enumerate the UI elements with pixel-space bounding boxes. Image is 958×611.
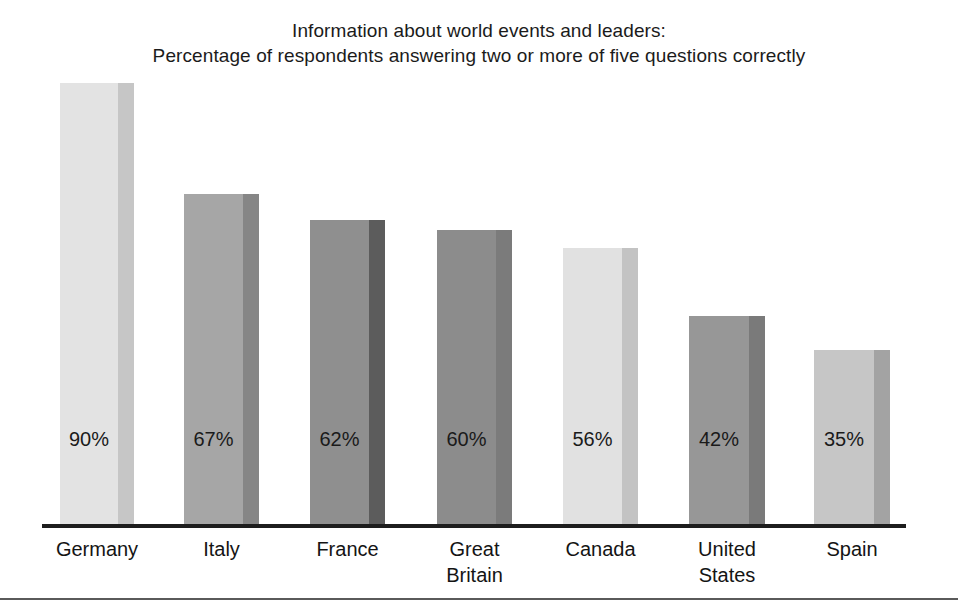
chart-figure: Information about world events and leade… — [0, 0, 958, 611]
bar-face — [310, 220, 369, 524]
bar[interactable] — [437, 230, 512, 524]
bar-value-label: 90% — [60, 428, 118, 451]
x-axis-category-label: Spain — [786, 536, 918, 562]
bar-side-shadow — [369, 220, 385, 524]
x-axis-category-label-line: Canada — [535, 536, 666, 562]
bar[interactable] — [310, 220, 385, 524]
bar-side-shadow — [243, 194, 259, 524]
bar-value-label: 35% — [814, 428, 874, 451]
bar-group — [563, 248, 638, 524]
plot-area: 90%Germany67%Italy62%France60%GreatBrita… — [0, 0, 958, 611]
x-axis-category-label: Italy — [156, 536, 287, 562]
bar-side-shadow — [496, 230, 512, 524]
bar-side-shadow — [118, 83, 134, 524]
x-axis-category-label: UnitedStates — [661, 536, 793, 588]
x-axis-category-label: GreatBritain — [409, 536, 540, 588]
bar-side-shadow — [749, 316, 765, 524]
bar-side-shadow — [622, 248, 638, 524]
x-axis-category-label-line: United — [661, 536, 793, 562]
bar-value-label: 67% — [184, 428, 243, 451]
bar[interactable] — [60, 83, 134, 524]
x-axis-category-label-line: Italy — [156, 536, 287, 562]
bar-group — [310, 220, 385, 524]
bar-value-label: 42% — [689, 428, 749, 451]
bar-face — [689, 316, 749, 524]
bar[interactable] — [184, 194, 259, 524]
bar-value-label: 62% — [310, 428, 369, 451]
x-axis-line — [42, 524, 906, 528]
bar[interactable] — [689, 316, 765, 524]
bar-face — [184, 194, 243, 524]
x-axis-category-label: Canada — [535, 536, 666, 562]
bar-group — [60, 83, 134, 524]
bar-group — [689, 316, 765, 524]
bottom-divider — [0, 598, 958, 600]
bar-face — [437, 230, 496, 524]
bar-group — [437, 230, 512, 524]
x-axis-category-label-line: Great — [409, 536, 540, 562]
x-axis-category-label: Germany — [32, 536, 162, 562]
bar[interactable] — [563, 248, 638, 524]
x-axis-category-label-line: Britain — [409, 562, 540, 588]
x-axis-category-label-line: States — [661, 562, 793, 588]
bar-face — [563, 248, 622, 524]
x-axis-category-label: France — [282, 536, 413, 562]
x-axis-category-label-line: Spain — [786, 536, 918, 562]
bar-side-shadow — [874, 350, 890, 524]
bar-value-label: 56% — [563, 428, 622, 451]
bar-group — [184, 194, 259, 524]
x-axis-category-label-line: France — [282, 536, 413, 562]
x-axis-category-label-line: Germany — [32, 536, 162, 562]
bar-value-label: 60% — [437, 428, 496, 451]
bar-face — [60, 83, 118, 524]
